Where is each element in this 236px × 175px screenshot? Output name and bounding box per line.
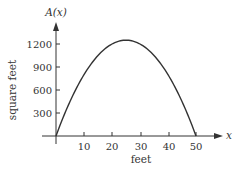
y-tick-label: 300 [33, 108, 52, 119]
y-axis-title: square feet [6, 59, 18, 120]
x-tick-label: 20 [106, 141, 119, 152]
x-tick-label: 50 [190, 141, 203, 152]
y-axis-arrow-icon [53, 22, 59, 31]
y-ticks [56, 44, 60, 113]
x-axis-symbol: x [226, 129, 232, 141]
area-function-chart: 1200 900 600 300 10 20 30 40 50 A(x) x f… [0, 0, 236, 175]
x-tick-label: 40 [163, 141, 176, 152]
x-tick-label: 10 [78, 141, 91, 152]
x-tick-label: 30 [135, 141, 148, 152]
function-label: A(x) [44, 6, 67, 18]
x-axis-arrow-icon [214, 133, 223, 139]
y-tick-label: 1200 [27, 39, 52, 50]
y-tick-label: 900 [33, 62, 52, 73]
x-ticks [84, 132, 196, 136]
y-tick-label: 600 [33, 85, 52, 96]
area-curve [56, 40, 196, 136]
x-axis-title: feet [131, 153, 152, 165]
